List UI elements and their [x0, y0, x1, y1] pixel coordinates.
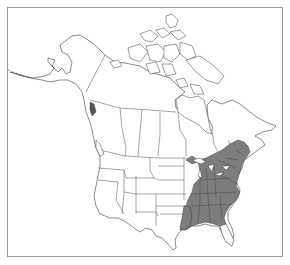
- north-america-range-map: [0, 0, 290, 265]
